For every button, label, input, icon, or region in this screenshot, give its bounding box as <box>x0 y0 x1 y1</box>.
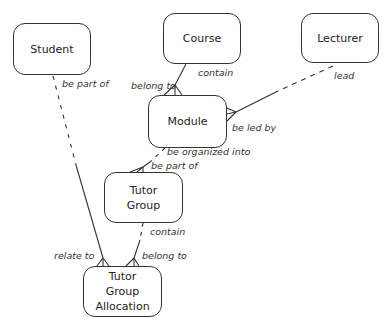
label-tga-relate-to: relate to <box>54 250 94 261</box>
entity-student[interactable]: Student <box>13 23 91 75</box>
label-module-belong-to: belong to <box>131 80 176 91</box>
label-module-be-organized-into: be organized into <box>167 146 250 157</box>
entity-module[interactable]: Module <box>148 95 227 148</box>
label-module-be-led-by: be led by <box>232 122 276 133</box>
lecturer-module-solid <box>236 91 278 112</box>
entity-module-label: Module <box>168 114 208 129</box>
label-tga-belong-to: belong to <box>142 250 187 261</box>
entity-course[interactable]: Course <box>163 13 241 64</box>
label-course-contain: contain <box>198 67 233 78</box>
entity-tga-label-line3: Allocation <box>95 299 149 314</box>
entity-tutor-group[interactable]: Tutor Group <box>104 172 183 223</box>
student-tga-dashed <box>53 76 76 165</box>
entity-tga-label-line2: Group <box>106 284 140 299</box>
entity-course-label: Course <box>183 31 221 46</box>
label-tg-contain: contain <box>150 226 185 237</box>
entity-student-label: Student <box>30 42 73 57</box>
label-tg-be-part-of: be part of <box>151 160 198 171</box>
tg-tga-dashed <box>140 223 143 240</box>
lecturer-module-dashed <box>278 66 333 91</box>
entity-lecturer[interactable]: Lecturer <box>301 13 379 63</box>
entity-tga-label-line1: Tutor <box>109 269 137 284</box>
entity-tutor-group-allocation[interactable]: Tutor Group Allocation <box>83 266 162 317</box>
course-module-line <box>175 64 186 85</box>
entity-tutor-group-label-line1: Tutor <box>130 183 158 198</box>
student-tga-solid <box>76 165 103 258</box>
entity-lecturer-label: Lecturer <box>317 31 363 46</box>
label-student-be-part-of: be part of <box>62 78 109 89</box>
label-lecturer-lead: lead <box>334 70 354 81</box>
entity-tutor-group-label-line2: Group <box>127 198 161 213</box>
